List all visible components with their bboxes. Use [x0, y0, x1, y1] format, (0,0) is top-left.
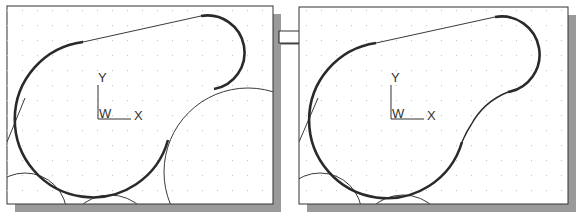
grid-dots — [299, 7, 568, 204]
left-drawing: Y W X — [0, 0, 290, 221]
ucs-y-label: Y — [98, 70, 107, 85]
ucs-x-label: X — [134, 108, 143, 123]
right-drawing: Y W X — [288, 0, 578, 221]
ucs-w-label: W — [99, 106, 112, 121]
ucs-x-label: X — [427, 108, 436, 123]
ucs-w-label: W — [392, 106, 405, 121]
left-viewport: Y W X — [0, 0, 290, 221]
right-viewport: Y W X — [288, 0, 578, 221]
ucs-y-label: Y — [391, 70, 400, 85]
grid-dots — [7, 6, 273, 204]
